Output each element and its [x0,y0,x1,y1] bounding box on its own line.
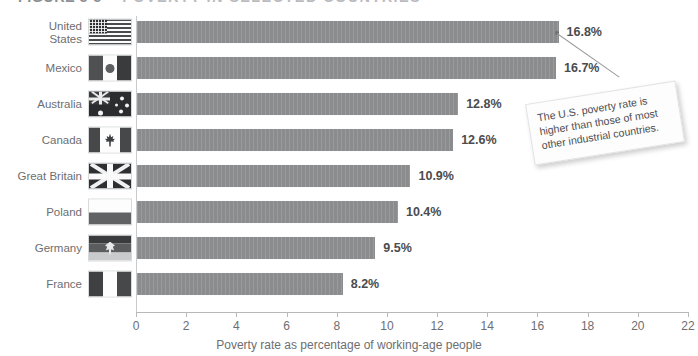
flag-united-states-icon [88,19,132,46]
flag-australia-icon [88,91,132,118]
x-axis-line [136,312,688,313]
bar [137,165,410,187]
x-axis-tick-label: 2 [183,319,190,333]
bar-value-label: 16.7% [564,61,599,75]
flag-germany-icon [88,235,132,262]
x-axis-tick-label: 10 [380,319,393,333]
bar-value-label: 9.5% [383,241,412,255]
bar [137,57,556,79]
x-axis-tick [487,312,488,317]
chart-row: Mexico16.7% [0,50,698,86]
bar [137,129,453,151]
country-label: France [8,278,82,291]
bar [137,273,343,295]
x-axis-tick-label: 6 [283,319,290,333]
x-axis-tick-label: 12 [430,319,443,333]
x-axis-tick-label: 14 [481,319,494,333]
country-label: Mexico [8,62,82,75]
bar [137,93,458,115]
country-label: Poland [8,206,82,219]
bar-value-label: 16.8% [567,25,602,39]
flag-canada-icon [88,127,132,154]
x-axis-tick-label: 0 [133,319,140,333]
bar-value-label: 8.2% [351,277,380,291]
bar-value-label: 12.6% [461,133,496,147]
x-axis-tick [287,312,288,317]
figure-title: FIGURE 5-5 POVERTY IN SELECTED COUNTRIES [18,0,678,6]
x-axis-tick [537,312,538,317]
country-label: Germany [8,242,82,255]
x-axis-title: Poverty rate as percentage of working-ag… [0,338,698,352]
flag-france-icon [88,271,132,298]
x-axis-tick-label: 22 [681,319,694,333]
country-label: Great Britain [8,170,82,183]
x-axis-tick [136,312,137,317]
bar-value-label: 10.9% [418,169,453,183]
x-axis-tick [437,312,438,317]
flag-poland-icon [88,199,132,226]
bar [137,237,375,259]
country-label: UnitedStates [8,20,82,45]
chart-row: France8.2% [0,266,698,302]
bar [137,21,559,43]
bar-value-label: 12.8% [466,97,501,111]
chart-row: Great Britain10.9% [0,158,698,194]
x-axis-tick-label: 4 [233,319,240,333]
country-label: Australia [8,98,82,111]
x-axis-tick [688,312,689,317]
flag-great-britain-icon [88,163,132,190]
x-axis-tick [588,312,589,317]
x-axis-tick [186,312,187,317]
x-axis-tick-label: 8 [333,319,340,333]
x-axis-tick [337,312,338,317]
chart-row: UnitedStates16.8% [0,14,698,50]
chart-row: Poland10.4% [0,194,698,230]
x-axis-tick-label: 20 [631,319,644,333]
x-axis-tick [638,312,639,317]
country-label: Canada [8,134,82,147]
x-axis-tick [236,312,237,317]
figure-number: FIGURE 5-5 [18,0,102,5]
bar [137,201,398,223]
x-axis-tick-label: 16 [531,319,544,333]
x-axis-tick-label: 18 [581,319,594,333]
figure-title-text: POVERTY IN SELECTED COUNTRIES [122,0,421,5]
x-axis-tick [387,312,388,317]
chart-row: Germany9.5% [0,230,698,266]
flag-mexico-icon [88,55,132,82]
bar-value-label: 10.4% [406,205,441,219]
